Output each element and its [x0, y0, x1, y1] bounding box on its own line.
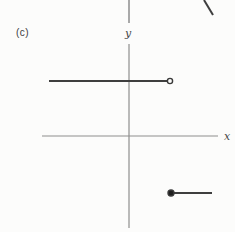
previous-figure-curve: [204, 0, 213, 15]
open-endpoint: [167, 78, 172, 83]
step-function-graph: [0, 0, 235, 232]
figure-panel-c: (c) y x: [0, 0, 235, 232]
y-axis-label: y: [125, 28, 131, 39]
closed-endpoint: [168, 190, 174, 196]
x-axis-label: x: [224, 131, 230, 142]
panel-label: (c): [16, 27, 29, 38]
